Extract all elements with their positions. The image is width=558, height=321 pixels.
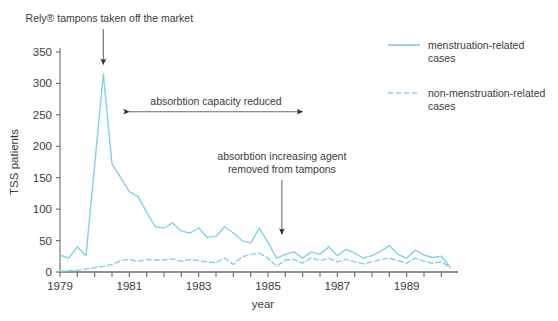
x-tick-label: 1979 xyxy=(47,280,73,292)
y-tick-label: 350 xyxy=(33,46,52,58)
legend-label-line2: cases xyxy=(428,100,455,112)
y-tick-label: 100 xyxy=(33,203,52,215)
x-tick-label: 1981 xyxy=(117,280,143,292)
y-tick-label: 150 xyxy=(33,172,52,184)
chart-canvas: 050100150200250300350TSS patients1979198… xyxy=(0,0,558,321)
y-tick-label: 0 xyxy=(46,266,52,278)
legend-label-line2: cases xyxy=(428,52,455,64)
annotations-group: Rely® tampons taken off the marketabsorb… xyxy=(26,12,347,234)
x-tick-label: 1989 xyxy=(394,280,420,292)
x-axis: 197919811983198519871989year xyxy=(47,272,458,310)
annotation-capacity-label: absorbtion capacity reduced xyxy=(150,95,281,107)
y-tick-label: 200 xyxy=(33,140,52,152)
series-non-menstruation-related xyxy=(60,253,450,271)
y-tick-label: 50 xyxy=(39,235,52,247)
x-tick-label: 1987 xyxy=(325,280,351,292)
y-axis: 050100150200250300350TSS patients xyxy=(8,46,60,278)
y-tick-label: 300 xyxy=(33,77,52,89)
annotation-rely-label: Rely® tampons taken off the market xyxy=(26,12,194,24)
y-tick-label: 250 xyxy=(33,109,52,121)
x-axis-title: year xyxy=(252,298,275,310)
x-tick-label: 1985 xyxy=(255,280,281,292)
legend-label-line1: non-menstruation-related xyxy=(428,87,545,99)
annotation-agent-label-line2: removed from tampons xyxy=(228,163,336,175)
y-axis-title: TSS patients xyxy=(8,129,20,195)
legend: menstruation-relatedcasesnon-menstruatio… xyxy=(388,39,545,112)
x-tick-label: 1983 xyxy=(186,280,212,292)
tss-patients-chart: 050100150200250300350TSS patients1979198… xyxy=(0,0,558,321)
annotation-agent-label-line1: absorbtion increasing agent xyxy=(217,150,346,162)
legend-label-line1: menstruation-related xyxy=(428,39,524,51)
